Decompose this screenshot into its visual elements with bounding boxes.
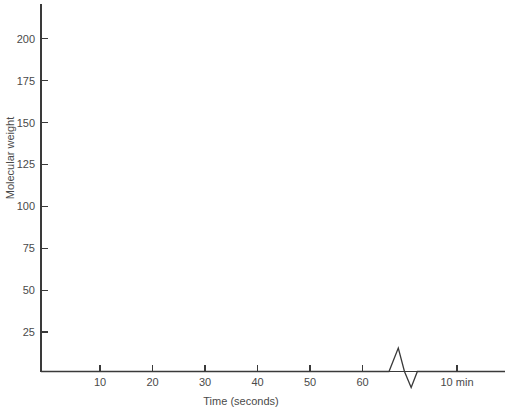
- y-tick-label-25: 25: [23, 326, 35, 338]
- x-tick-label-60: 60: [356, 376, 368, 388]
- x-axis-title: Time (seconds): [203, 395, 278, 407]
- x-tick-label-10: 10: [94, 376, 106, 388]
- y-tick-label-125: 125: [17, 158, 35, 170]
- y-axis-tick-labels: 25 50 75 100 125 150 175 200: [17, 33, 35, 338]
- y-tick-label-50: 50: [23, 284, 35, 296]
- y-axis-title: Molecular weight: [4, 117, 16, 200]
- x-tick-label-20: 20: [146, 376, 158, 388]
- y-tick-label-100: 100: [17, 200, 35, 212]
- y-axis-ticks: [41, 39, 48, 332]
- line-chart-plot: 25 50 75 100 125 150 175 200 10 20 30 40…: [0, 0, 512, 416]
- x-tick-label-10-min: 10 min: [440, 376, 473, 388]
- x-axis-tick-labels: 10 20 30 40 50 60 10 min: [94, 376, 474, 388]
- y-tick-label-75: 75: [23, 242, 35, 254]
- x-tick-label-40: 40: [251, 376, 263, 388]
- y-tick-label-150: 150: [17, 117, 35, 129]
- y-tick-label-200: 200: [17, 33, 35, 45]
- data-trace-line: [41, 348, 505, 387]
- x-tick-label-30: 30: [199, 376, 211, 388]
- x-tick-label-50: 50: [304, 376, 316, 388]
- chart-figure: 25 50 75 100 125 150 175 200 10 20 30 40…: [0, 0, 512, 416]
- y-tick-label-175: 175: [17, 75, 35, 87]
